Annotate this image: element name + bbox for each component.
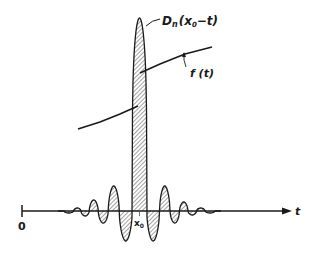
x0-label: x0 — [134, 218, 144, 229]
origin-label: 0 — [18, 220, 26, 233]
function-curve-left — [78, 106, 138, 129]
axis-arrow-icon — [282, 208, 292, 215]
t-axis-label: t — [295, 205, 301, 218]
dirichlet-kernel-diagram: Dn(x0−t) f (t) 0 x0 t — [0, 0, 313, 254]
kernel-label: Dn(x0−t) — [162, 14, 218, 29]
kernel-label-leader — [146, 19, 160, 26]
function-label: f (t) — [190, 67, 214, 80]
